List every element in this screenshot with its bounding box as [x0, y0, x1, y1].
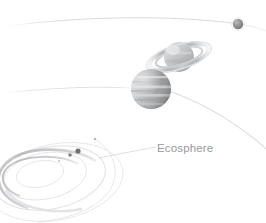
outer-orbit-arc	[8, 18, 266, 31]
distant-planet-body	[233, 19, 243, 29]
middle-orbit-arc	[2, 87, 134, 93]
ecosphere-leader-line	[99, 147, 156, 158]
solar-system-illustration	[0, 0, 266, 223]
ecosphere-ring-core	[14, 157, 66, 192]
banded-gas-giant	[131, 69, 171, 109]
ecosphere-ring-inner-shade	[3, 157, 78, 196]
inner-planet-c	[94, 138, 96, 140]
inner-planet-d	[58, 160, 60, 162]
inner-planet-a	[75, 148, 80, 153]
ecosphere-rings-group	[0, 132, 130, 223]
inner-planet-b	[68, 153, 72, 157]
small-distant-planet	[232, 18, 245, 31]
ecosphere-label: Ecosphere	[157, 142, 213, 154]
banded-planet-shading	[131, 69, 171, 109]
ecosphere-diagram: Ecosphere	[0, 0, 266, 223]
inner-orbit-sweep	[166, 90, 266, 149]
